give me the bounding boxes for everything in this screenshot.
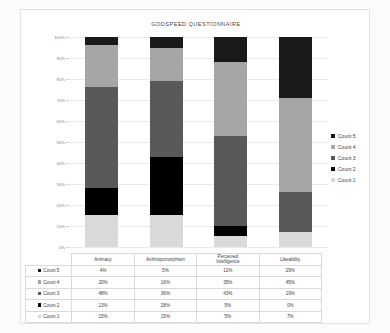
table-cell: 12% xyxy=(197,265,259,277)
bar-segment[interactable] xyxy=(85,188,118,215)
bar-segment[interactable] xyxy=(214,136,247,226)
chart-title: GODSPEED QUESTIONNAIRE xyxy=(21,21,371,27)
legend-swatch-icon xyxy=(331,145,335,149)
table-cell: 0% xyxy=(259,300,321,312)
bar-segment[interactable] xyxy=(85,215,118,247)
table-cell: 19% xyxy=(259,288,321,300)
table-row: Count 54%5%12%29% xyxy=(26,265,322,277)
bar-segment[interactable] xyxy=(150,48,183,82)
bar-slot-animacy xyxy=(69,37,134,247)
bar-segment[interactable] xyxy=(214,236,247,247)
legend-swatch-icon xyxy=(331,167,335,171)
table-cell: 48% xyxy=(72,288,134,300)
bar-segment[interactable] xyxy=(279,232,312,247)
table-cell: 5% xyxy=(197,311,259,323)
stacked-bar[interactable] xyxy=(85,37,118,247)
legend-item[interactable]: Count 5 xyxy=(331,130,390,141)
table-row-key: Count 3 xyxy=(26,288,72,300)
y-tick-label: 0% xyxy=(59,245,65,250)
bar-segment[interactable] xyxy=(85,45,118,87)
bar-series-group xyxy=(69,37,328,247)
y-tick-label: 90% xyxy=(57,56,65,61)
bar-segment[interactable] xyxy=(214,62,247,136)
bar-segment[interactable] xyxy=(150,157,183,216)
bar-segment[interactable] xyxy=(214,226,247,237)
bar-segment[interactable] xyxy=(214,37,247,62)
table-row-key: Count 4 xyxy=(26,277,72,289)
bar-segment[interactable] xyxy=(279,192,312,232)
y-tick-label: 40% xyxy=(57,161,65,166)
bar-segment[interactable] xyxy=(150,81,183,157)
chart-legend: Count 5Count 4Count 3Count 2Count 1 xyxy=(331,130,390,185)
series-swatch-icon xyxy=(38,315,41,318)
table-row-key: Count 5 xyxy=(26,265,72,277)
series-swatch-icon xyxy=(38,292,41,295)
table-row: Count 420%16%35%45% xyxy=(26,277,322,289)
table-cell: 5% xyxy=(134,265,196,277)
stacked-bar[interactable] xyxy=(279,37,312,247)
table-row-label: Count 5 xyxy=(43,268,59,273)
stacked-bar[interactable] xyxy=(214,37,247,247)
y-tick-label: 30% xyxy=(57,182,65,187)
bar-slot-likeability xyxy=(263,37,328,247)
bar-segment[interactable] xyxy=(85,37,118,45)
y-tick-label: 80% xyxy=(57,77,65,82)
table-row: Count 115%15%5%7% xyxy=(26,311,322,323)
table-column-header: PerceivedIntelligence xyxy=(197,254,259,266)
bar-segment[interactable] xyxy=(279,98,312,193)
stacked-bar[interactable] xyxy=(150,37,183,247)
chart-container: GODSPEED QUESTIONNAIRE 100%90%80%70%60%5… xyxy=(20,9,370,324)
legend-label: Count 4 xyxy=(338,144,356,150)
table-cell: 36% xyxy=(134,288,196,300)
legend-label: Count 1 xyxy=(338,177,356,183)
y-tick-label: 100% xyxy=(54,35,65,40)
bar-segment[interactable] xyxy=(279,37,312,98)
screenshot-canvas: GODSPEED QUESTIONNAIRE 100%90%80%70%60%5… xyxy=(0,0,390,333)
bar-slot-anthropomorphism xyxy=(134,37,199,247)
legend-label: Count 5 xyxy=(338,133,356,139)
table-cell: 35% xyxy=(197,277,259,289)
table-column-header: Anthropomorphism xyxy=(134,254,196,266)
legend-item[interactable]: Count 2 xyxy=(331,163,390,174)
table-column-header: Animacy xyxy=(72,254,134,266)
table-row: Count 213%28%5%0% xyxy=(26,300,322,312)
table-row-key: Count 1 xyxy=(26,311,72,323)
table-cell: 15% xyxy=(134,311,196,323)
data-table: AnimacyAnthropomorphismPerceivedIntellig… xyxy=(25,253,322,323)
table-header-row: AnimacyAnthropomorphismPerceivedIntellig… xyxy=(26,254,322,266)
table-cell: 7% xyxy=(259,311,321,323)
bar-segment[interactable] xyxy=(85,87,118,188)
bar-segment[interactable] xyxy=(150,215,183,247)
plot-area: 100%90%80%70%60%50%40%30%20%10%0% xyxy=(69,37,328,247)
gridline xyxy=(69,247,328,248)
table-cell: 43% xyxy=(197,288,259,300)
table-cell: 20% xyxy=(72,277,134,289)
table-body: Count 54%5%12%29%Count 420%16%35%45%Coun… xyxy=(26,265,322,323)
legend-item[interactable]: Count 4 xyxy=(331,141,390,152)
table-row-key: Count 2 xyxy=(26,300,72,312)
legend-swatch-icon xyxy=(331,134,335,138)
y-tick-mark xyxy=(66,247,69,248)
series-swatch-icon xyxy=(38,269,41,272)
bar-segment[interactable] xyxy=(150,37,183,48)
table-row-label: Count 1 xyxy=(43,314,59,319)
legend-item[interactable]: Count 3 xyxy=(331,152,390,163)
table-row-label: Count 3 xyxy=(43,291,59,296)
table-column-header: Likeability xyxy=(259,254,321,266)
legend-label: Count 2 xyxy=(338,166,356,172)
table-cell: 4% xyxy=(72,265,134,277)
table-cell: 45% xyxy=(259,277,321,289)
table-cell: 13% xyxy=(72,300,134,312)
y-tick-label: 60% xyxy=(57,119,65,124)
table-cell: 15% xyxy=(72,311,134,323)
y-tick-label: 50% xyxy=(57,140,65,145)
table-cell: 16% xyxy=(134,277,196,289)
y-tick-label: 20% xyxy=(57,203,65,208)
table-corner-cell xyxy=(26,254,72,266)
y-tick-label: 10% xyxy=(57,224,65,229)
table-cell: 5% xyxy=(197,300,259,312)
legend-label: Count 3 xyxy=(338,155,356,161)
table-cell: 28% xyxy=(134,300,196,312)
table-row-label: Count 2 xyxy=(43,303,59,308)
legend-item[interactable]: Count 1 xyxy=(331,174,390,185)
